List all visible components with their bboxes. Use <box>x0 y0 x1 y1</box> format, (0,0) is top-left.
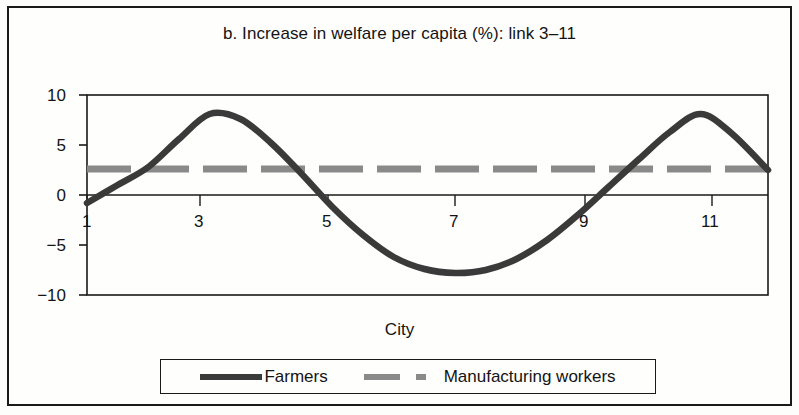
y-axis-label-5: 5 <box>18 136 66 156</box>
x-axis-label-1: 1 <box>82 212 91 232</box>
legend-swatch-dashed-icon <box>364 374 436 380</box>
plot-area <box>0 0 799 415</box>
chart-legend: Farmers Manufacturing workers <box>160 359 656 394</box>
x-axis-label-11: 11 <box>701 212 719 232</box>
x-axis-label-7: 7 <box>449 212 458 232</box>
y-axis-label-minus-5: −5 <box>18 236 66 256</box>
legend-item-manufacturing-workers: Manufacturing workers <box>364 368 616 385</box>
legend-swatch-solid-icon <box>200 374 262 380</box>
figure-container: b. Increase in welfare per capita (%): l… <box>0 0 799 415</box>
y-axis-label-0: 0 <box>18 186 66 206</box>
legend-label-manufacturing-workers: Manufacturing workers <box>444 368 616 385</box>
x-axis-title: City <box>0 320 799 340</box>
legend-item-farmers: Farmers <box>200 368 327 385</box>
x-axis-label-3: 3 <box>194 212 203 232</box>
y-axis-label-minus-10: −10 <box>18 286 66 306</box>
series-line-farmers <box>87 113 768 273</box>
legend-label-farmers: Farmers <box>264 368 327 385</box>
y-axis-label-10: 10 <box>18 86 66 106</box>
x-axis-label-9: 9 <box>579 212 588 232</box>
x-axis-label-5: 5 <box>322 212 331 232</box>
